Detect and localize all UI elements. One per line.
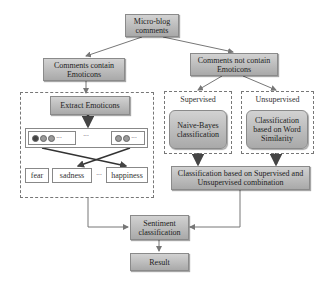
node-comments-not-contain-emoticons: Comments not contain Emoticons <box>190 53 278 76</box>
unsupervised-label: Unsupervised <box>242 95 313 104</box>
emotion-happiness: happiness <box>106 167 148 183</box>
node-label: Comments not contain Emoticons <box>191 56 277 74</box>
emotion-sadness: sadness <box>52 168 92 183</box>
node-label: Naive-Bayes classification <box>170 121 226 139</box>
supervised-label: Supervised <box>165 95 231 104</box>
node-micro-blog-comments: Micro-blog comments <box>125 14 179 37</box>
emoticon-icon <box>48 135 55 142</box>
emotion-fear: fear <box>25 168 49 183</box>
ellipsis: ··· <box>83 132 89 140</box>
emoticon-icon <box>40 135 47 142</box>
ellipsis: ··· <box>96 171 102 179</box>
emotion-label: fear <box>31 171 43 180</box>
emoticon-group-right: ··· <box>111 131 145 145</box>
ellipsis: ··· <box>131 134 137 142</box>
node-extract-emoticons: Extract Emoticons <box>50 96 130 115</box>
node-label: Result <box>149 258 169 267</box>
emotion-label: sadness <box>60 171 84 180</box>
node-label: Micro-blog comments <box>126 17 178 35</box>
emotion-label: happiness <box>111 171 143 180</box>
node-comments-contain-emoticons: Comments contain Emoticons <box>43 58 125 81</box>
node-sentiment-classification: Sentiment classification <box>130 215 189 240</box>
emoticon-group-left: ··· <box>28 131 76 145</box>
node-result: Result <box>130 253 189 271</box>
node-label: Classification based on Supervised and U… <box>172 169 309 187</box>
ellipsis: ··· <box>56 134 62 142</box>
emoticon-icon <box>115 135 122 142</box>
node-word-similarity: Classification based on Word Similarity <box>246 110 308 149</box>
node-label: Extract Emoticons <box>60 101 119 110</box>
node-label: Classification based on Word Similarity <box>247 116 307 143</box>
node-naive-bayes: Naive-Bayes classification <box>169 110 227 149</box>
node-combination-classification: Classification based on Supervised and U… <box>171 166 310 190</box>
emoticon-icon <box>123 135 130 142</box>
node-label: Comments contain Emoticons <box>44 61 124 79</box>
emoticon-row: ··· ··· ··· <box>25 128 148 148</box>
emoticon-icon <box>32 135 39 142</box>
node-label: Sentiment classification <box>131 219 188 237</box>
